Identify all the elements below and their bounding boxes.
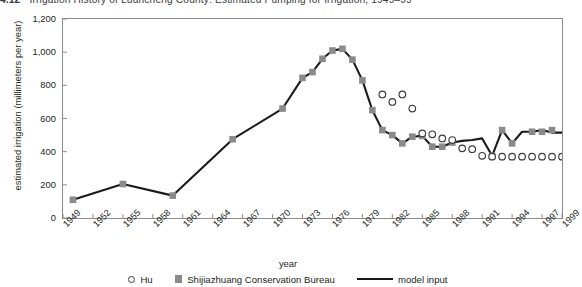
open-circle-icon: [128, 276, 135, 283]
data-point-square: [169, 192, 176, 199]
legend-label: model input: [398, 274, 448, 285]
data-point-circle: [389, 99, 396, 106]
data-point-circle: [419, 130, 426, 137]
x-tick-label: 1999: [560, 208, 582, 230]
series-shijiazhuang-conservation-bureau: [70, 46, 556, 204]
data-point-circle: [459, 145, 466, 152]
legend-label: Shijiazhuang Conservation Bureau: [187, 274, 335, 285]
data-point-square: [279, 105, 286, 112]
data-point-square: [529, 128, 536, 135]
data-point-square: [359, 77, 366, 84]
x-axis-ticks: 1949195219551958196119641967197019731976…: [62, 222, 563, 256]
legend-item-model-input[interactable]: model input: [357, 274, 448, 285]
data-point-circle: [519, 153, 526, 160]
data-point-circle: [429, 131, 436, 138]
y-tick-label: 1,000: [10, 46, 56, 57]
y-tick-label: 200: [10, 179, 56, 190]
legend-item-shijiazhuang-conservation-bureau[interactable]: Shijiazhuang Conservation Bureau: [175, 274, 335, 285]
data-point-square: [439, 143, 446, 150]
data-point-square: [329, 47, 336, 54]
data-point-square: [349, 56, 356, 63]
data-point-circle: [409, 105, 416, 112]
data-point-circle: [559, 153, 562, 160]
data-point-square: [70, 196, 77, 203]
y-tick-label: 400: [10, 146, 56, 157]
figure-title-text: Irrigation History of Luancheng County: …: [29, 0, 412, 5]
data-point-square: [539, 128, 546, 135]
filled-square-icon: [175, 275, 183, 283]
data-point-circle: [479, 153, 486, 160]
data-point-square: [549, 127, 556, 134]
data-point-square: [509, 140, 516, 147]
data-point-square: [379, 127, 386, 134]
y-axis-ticks: 02004006008001,0001,200: [8, 18, 56, 219]
chart-canvas: [63, 19, 562, 218]
data-point-square: [399, 140, 406, 147]
line-sample-icon: [357, 278, 393, 281]
y-tick-label: 600: [10, 113, 56, 124]
data-point-circle: [489, 153, 496, 160]
data-point-square: [299, 75, 306, 82]
data-point-circle: [549, 153, 556, 160]
data-point-square: [389, 132, 396, 139]
series-model-input: [73, 49, 562, 200]
data-point-circle: [449, 137, 456, 144]
legend-label: Hu: [140, 274, 152, 285]
data-point-circle: [379, 91, 386, 98]
data-point-square: [120, 181, 127, 188]
data-point-circle: [499, 153, 506, 160]
data-point-square: [369, 107, 376, 114]
data-point-square: [499, 127, 506, 134]
y-tick-label: 1,200: [10, 13, 56, 24]
data-point-square: [429, 143, 436, 150]
y-tick-label: 0: [10, 212, 56, 223]
legend-item-hu[interactable]: Hu: [128, 274, 152, 285]
data-point-circle: [539, 153, 546, 160]
data-point-circle: [509, 153, 516, 160]
data-point-square: [229, 136, 236, 143]
y-tick-label: 800: [10, 79, 56, 90]
data-point-circle: [469, 146, 476, 153]
data-point-square: [319, 56, 326, 63]
chart-legend: HuShijiazhuang Conservation Bureaumodel …: [0, 272, 576, 286]
x-axis-label: year: [0, 258, 576, 269]
data-point-circle: [529, 153, 536, 160]
data-point-circle: [399, 91, 406, 98]
series-hu: [379, 91, 562, 160]
figure-title: 4.12Irrigation History of Luancheng Coun…: [0, 0, 576, 6]
data-point-square: [309, 69, 316, 76]
data-point-square: [409, 133, 416, 140]
plot-area: [62, 18, 563, 219]
data-point-circle: [439, 135, 446, 142]
data-point-square: [339, 46, 346, 53]
